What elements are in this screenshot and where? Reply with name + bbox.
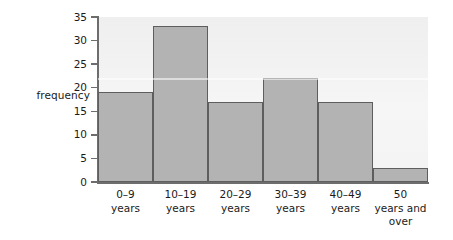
bar	[318, 102, 373, 182]
y-axis-tick-label: 5	[58, 153, 87, 164]
y-axis-tick-label: 20	[58, 82, 87, 93]
bar	[208, 102, 263, 182]
bar	[98, 92, 153, 182]
y-axis-tick-label: 25	[58, 59, 87, 70]
bar	[373, 168, 428, 182]
y-axis-tick	[91, 181, 97, 182]
y-axis-tick-label: 0	[58, 177, 87, 188]
y-axis-tick	[91, 134, 97, 135]
bar	[153, 26, 208, 182]
y-axis-tick-label: 35	[58, 12, 87, 23]
y-axis-tick-label: 30	[58, 35, 87, 46]
y-axis-tick-label: 10	[58, 129, 87, 140]
y-axis-tick-label: 15	[58, 106, 87, 117]
x-axis-category-label: 20–29 years	[208, 188, 263, 215]
y-axis-tick	[91, 87, 97, 88]
y-axis-tick	[91, 158, 97, 159]
bar	[263, 78, 318, 182]
x-axis-category-label: 50 years and over	[373, 188, 428, 229]
x-axis-line	[97, 182, 429, 184]
histogram-figure: frequency 05101520253035 0–9 years10–19 …	[0, 0, 453, 240]
y-axis-tick	[91, 111, 97, 112]
x-axis-category-label: 30–39 years	[263, 188, 318, 215]
y-axis-tick	[91, 63, 97, 64]
x-axis-category-label: 10–19 years	[153, 188, 208, 215]
y-axis-tick	[91, 40, 97, 41]
x-axis-category-label: 0–9 years	[98, 188, 153, 215]
x-axis-category-label: 40–49 years	[318, 188, 373, 215]
y-axis-tick	[91, 16, 97, 17]
